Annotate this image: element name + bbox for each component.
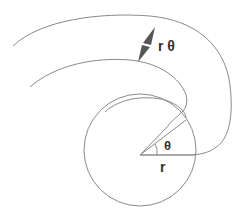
spiral-diagram: r θ θ r bbox=[0, 0, 243, 223]
circle bbox=[84, 94, 196, 206]
outer-spiral-arc bbox=[13, 15, 231, 155]
inner-circle-arc bbox=[105, 98, 186, 118]
angle-label: θ bbox=[164, 138, 171, 153]
arrow-down-icon bbox=[138, 45, 150, 62]
radius-label: r bbox=[160, 159, 166, 175]
angle-line bbox=[140, 120, 186, 155]
arc-length-label: r θ bbox=[158, 38, 175, 54]
arrow-up-icon bbox=[143, 27, 155, 45]
angle-arc bbox=[155, 144, 157, 155]
